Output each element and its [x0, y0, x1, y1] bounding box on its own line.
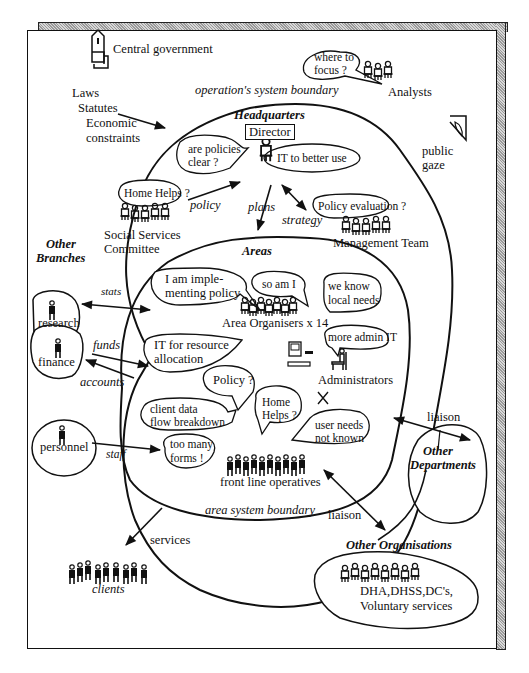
too-many-forms-line1: too many — [170, 437, 213, 451]
public-gaze-line2: gaze — [422, 158, 445, 172]
more-admin-it-text: more admin IT — [328, 330, 397, 344]
it-resource-line2: allocation — [154, 352, 203, 366]
front-line-operatives-icon — [227, 455, 305, 476]
other-departments-blob — [408, 425, 486, 524]
strategy-arrow-label: strategy — [282, 213, 322, 227]
plans-arrow-label: plans — [248, 200, 275, 214]
it-resource-line1: IT for resource — [154, 338, 229, 352]
policies-clear-line1: are policies — [188, 142, 241, 156]
implementing-line2: menting policy — [165, 286, 240, 300]
client-data-line2: flow breakdown — [150, 415, 225, 429]
home-helps-hq-text: Home Helps ? — [124, 186, 190, 200]
economic-label: Economic — [86, 116, 137, 130]
operations-boundary-label: operation's system boundary — [195, 83, 339, 97]
arrow-funds — [92, 354, 148, 366]
accounts-arrow-label: accounts — [80, 375, 124, 389]
clients-label: clients — [92, 582, 125, 596]
area-boundary-label: area system boundary — [205, 503, 315, 517]
home-helps-area-line1: Home — [262, 395, 290, 409]
area-organisers-label: Area Organisers x 14 — [222, 316, 328, 330]
director-icon — [260, 138, 273, 161]
public-gaze-line1: public — [422, 144, 453, 158]
computer-icon — [288, 342, 313, 366]
funds-arrow-label: funds — [93, 338, 120, 352]
analysts-label: Analysts — [388, 85, 432, 99]
where-to-focus-line1: where to — [314, 50, 354, 64]
policies-clear-line2: clear ? — [188, 155, 218, 169]
staff-arrow-label: staff — [106, 447, 126, 461]
analysts-icon — [364, 61, 393, 80]
administrators-label: Administrators — [318, 373, 393, 387]
arrow-stats — [82, 304, 150, 310]
policy-arrow-label: policy — [190, 198, 221, 212]
areas-title: Areas — [242, 244, 272, 258]
other-branches-line2: Branches — [36, 251, 85, 265]
public-gaze-eye-icon — [450, 116, 466, 140]
rich-picture-diagram: Central government Laws Statutes Economi… — [0, 0, 529, 673]
finance-label: finance — [38, 355, 75, 369]
other-departments-line2: Departments — [410, 458, 476, 472]
services-label: services — [150, 533, 190, 547]
laws-label: Laws — [72, 86, 99, 100]
policy-evaluation-text: Policy evaluation ? — [318, 199, 406, 213]
other-organisations-members-line2: Voluntary services — [360, 599, 452, 613]
it-better-use-text: IT to better use — [277, 151, 347, 165]
stats-arrow-label: stats — [101, 284, 121, 298]
org-liaison-label: liaison — [328, 508, 361, 522]
local-needs-line2: local needs — [328, 293, 379, 307]
director-box: Director — [245, 124, 295, 140]
home-helps-area-line2: Helps ? — [262, 408, 297, 422]
too-many-forms-line2: forms ! — [170, 451, 204, 465]
research-label: research — [38, 316, 80, 330]
local-needs-line1: we know — [328, 279, 370, 293]
dept-liaison-label: liaison — [427, 410, 460, 424]
other-organisations-title: Other Organisations — [346, 538, 452, 552]
other-branches-line1: Other — [46, 237, 76, 251]
front-line-label: front line operatives — [220, 475, 321, 489]
constraints-label: constraints — [86, 131, 140, 145]
arrow-strategy — [282, 185, 306, 210]
user-needs-line1: user needs — [315, 418, 363, 432]
headquarters-title: Headquarters — [234, 108, 305, 122]
statutes-label: Statutes — [78, 101, 118, 115]
government-building-icon — [92, 30, 108, 68]
clients-icon — [69, 561, 147, 584]
user-needs-line2: not known — [315, 431, 364, 445]
central-government-label: Central government — [113, 42, 213, 56]
conflict-cross-icon — [318, 392, 328, 404]
where-to-focus-line2: focus ? — [314, 63, 347, 77]
committee-label-line1: Social Services — [104, 228, 181, 242]
personnel-label: personnel — [40, 440, 89, 454]
management-team-label: Management Team — [333, 236, 429, 250]
implementing-line1: I am imple- — [165, 272, 223, 286]
policy-q-text: Policy ? — [213, 373, 254, 387]
so-am-i-text: so am I — [262, 277, 296, 291]
management-team-icon — [342, 216, 391, 235]
other-departments-line1: Other — [423, 444, 453, 458]
other-organisations-members-line1: DHA,DHSS,DC's, — [360, 584, 453, 598]
committee-label-line2: Committee — [104, 242, 160, 256]
arrow-staff — [92, 443, 160, 450]
client-data-line1: client data — [150, 402, 198, 416]
